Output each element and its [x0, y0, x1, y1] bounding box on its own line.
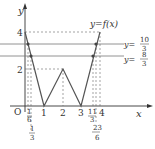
y-tick-4: 4 [17, 28, 23, 38]
intersection-point [94, 42, 97, 45]
function-graph: y x O 4 2 1 2 3 4 1 6 1 3 11 3 23 6 y=f(… [0, 0, 155, 149]
hline-10-3-num: 10 [140, 36, 149, 44]
frac-23-6-den: 6 [95, 134, 100, 142]
frac-1-6-num: 1 [27, 108, 31, 116]
y-axis-label: y [17, 5, 24, 16]
y-tick-2: 2 [17, 65, 23, 75]
hline-8-3-den: 3 [142, 60, 146, 68]
intersection-point [26, 42, 29, 45]
hline-8-3-num: 8 [142, 51, 146, 59]
x-axis-arrow-icon [147, 104, 153, 108]
intersection-point [91, 54, 94, 57]
frac-11-3-num: 11 [88, 108, 97, 116]
x-tick-1: 1 [41, 108, 47, 118]
x-tick-2: 2 [60, 108, 66, 118]
hline-label-prefix: y= [123, 40, 135, 49]
frac-1-3-den: 3 [30, 134, 34, 142]
x-tick-3: 3 [78, 108, 84, 118]
intersection-point [29, 54, 32, 57]
frac-1-3-num: 1 [30, 125, 34, 133]
x-axis-label: x [136, 108, 142, 119]
frac-23-6-num: 23 [93, 124, 102, 132]
frac-11-3-den: 3 [90, 116, 94, 124]
hline-label-prefix: y= [123, 55, 135, 64]
function-curve [25, 32, 100, 106]
frac-1-6-den: 6 [27, 116, 32, 124]
x-tick-4: 4 [99, 108, 105, 118]
function-label: y=f(x) [89, 19, 119, 29]
origin-label: O [14, 107, 21, 117]
